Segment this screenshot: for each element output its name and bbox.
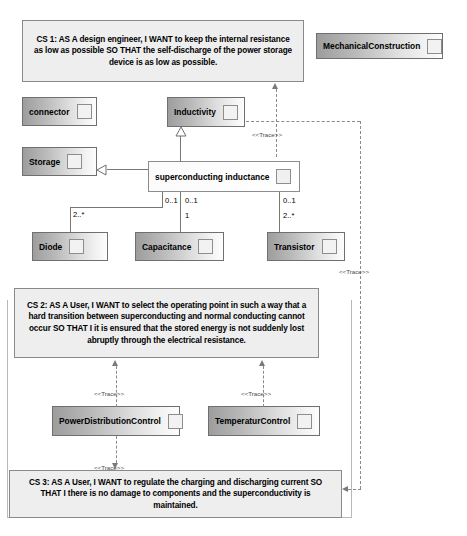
trace-label-right-route: <<Trace>> [339,268,369,275]
block-stereotype-icon [322,239,337,254]
block-stereotype-icon [67,154,82,169]
block-inductivity-label: Inductivity [174,107,216,117]
block-mechanical-construction[interactable]: MechanicalConstruction [316,33,443,59]
trace-label-pdc-cs3: <<Trace>> [94,464,124,471]
block-superconducting-inductance[interactable]: superconducting inductance [148,161,300,192]
block-diode-label: Diode [39,242,62,252]
assoc-sc-diode-h [70,207,163,208]
block-diode[interactable]: Diode [32,232,108,261]
multiplicity-transistor-lower: 2..* [283,211,294,220]
block-connector-label: connector [29,107,70,117]
trace-label-tc-cs2: <<Trace>> [241,390,271,397]
trace-pdc-to-cs2-line [116,366,117,407]
assoc-sc-capacitance-v [180,192,181,232]
block-storage[interactable]: Storage [22,147,97,176]
generalization-sc-to-storage-arrowhead [97,164,107,176]
block-storage-label: Storage [29,157,60,167]
trace-label-inductivity-cs1: <<Trace>> [252,131,282,138]
trace-inductivity-to-cs1-line [276,89,277,157]
trace-tc-to-cs2-line [263,366,264,407]
multiplicity-capacitance-lower: 1 [185,211,189,220]
assoc-sc-diode-v2 [70,207,71,232]
block-stereotype-icon [69,239,84,254]
block-transistor-label: Transistor [274,242,315,252]
block-temperatur-control[interactable]: TemperaturControl [208,406,320,436]
trace-pdc-to-cs2-arrowhead [112,360,118,366]
multiplicity-diode-end: 2..* [73,210,84,219]
block-stereotype-icon [168,414,183,429]
generalization-sc-to-storage-line [107,169,148,170]
multiplicity-sc-left: 0..1 [165,196,178,205]
trace-label-pdc-cs2: <<Trace>> [94,390,124,397]
trace-pdc-to-cs3-line [116,436,117,463]
block-superconducting-inductance-label: superconducting inductance [155,172,269,182]
requirement-cs1-text: CS 1: AS A design engineer, I WANT to ke… [31,34,295,69]
block-transistor[interactable]: Transistor [267,232,345,261]
trace-tc-to-cs2-arrowhead [259,360,265,366]
block-connector[interactable]: connector [22,97,97,126]
generalization-sc-to-inductivity-arrowhead [175,127,187,137]
block-temperatur-control-label: TemperaturControl [215,416,290,426]
block-stereotype-icon [77,104,92,119]
requirement-cs3-text: CS 3: AS A User, I WANT to regulate the … [18,477,333,512]
requirement-cs2-text: CS 2: AS A User, I WANT to select the op… [23,300,310,347]
assoc-sc-diode-v1 [162,192,163,207]
block-stereotype-icon [427,39,442,54]
block-stereotype-icon [297,414,312,429]
multiplicity-transistor-upper: 0..1 [283,196,296,205]
block-capacitance-label: Capacitance [142,242,191,252]
block-inductivity[interactable]: Inductivity [167,97,245,127]
multiplicity-capacitance-upper: 0..1 [185,196,198,205]
requirement-cs3: CS 3: AS A User, I WANT to regulate the … [9,470,342,518]
block-power-distribution-control-label: PowerDistributionControl [59,416,161,426]
trace-right-route-vertical [360,121,361,489]
block-stereotype-icon [198,239,213,254]
generalization-sc-to-inductivity-line [180,135,181,162]
block-stereotype-icon [276,169,291,184]
trace-right-route-bottom [348,489,361,490]
requirement-cs1: CS 1: AS A design engineer, I WANT to ke… [22,20,304,82]
block-stereotype-icon [223,105,238,120]
assoc-sc-transistor-v [279,192,280,232]
trace-right-route-arrowhead [342,486,348,492]
trace-right-route-top [246,121,360,122]
block-capacitance[interactable]: Capacitance [135,232,224,261]
trace-inductivity-to-cs1-arrowhead [272,83,278,89]
block-mechanical-construction-label: MechanicalConstruction [323,41,420,51]
requirement-cs2: CS 2: AS A User, I WANT to select the op… [14,288,319,358]
diagram-canvas: CS 1: AS A design engineer, I WANT to ke… [0,0,467,536]
block-power-distribution-control[interactable]: PowerDistributionControl [52,406,180,436]
